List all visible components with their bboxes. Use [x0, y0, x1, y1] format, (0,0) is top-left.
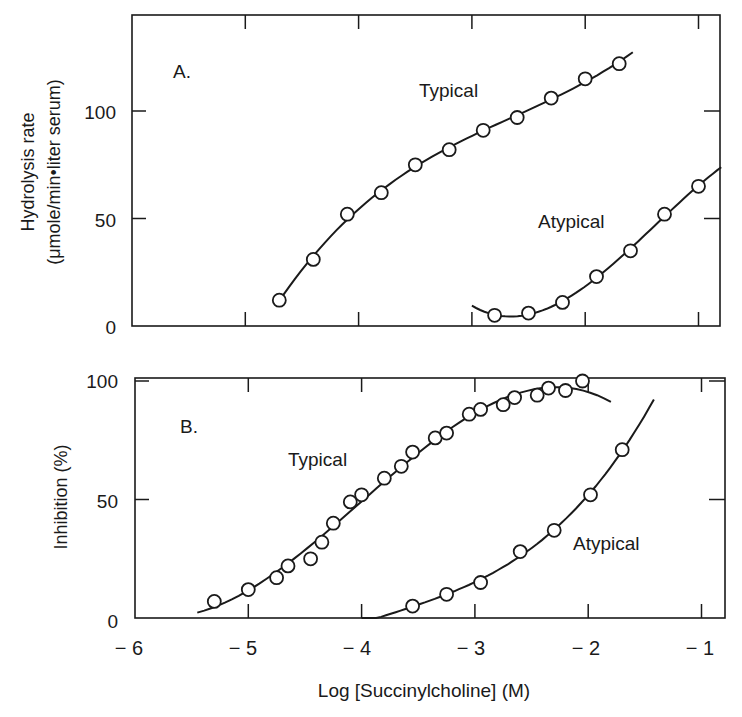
x-tick-label-neg5: − 5 [229, 637, 257, 659]
panel-a-frame [132, 15, 720, 326]
data-point-typical [440, 427, 453, 440]
panel-a: 100 50 0 Hydrolysis rate (μmole/min•lite… [18, 15, 721, 338]
data-point-typical [273, 294, 286, 307]
panel-b-y-tick-100: 100 [86, 371, 118, 392]
data-point-typical [406, 446, 419, 459]
data-point-typical [409, 158, 422, 171]
data-point-typical [341, 208, 354, 221]
data-point-typical [242, 583, 255, 596]
data-point-typical [576, 375, 589, 388]
x-tick-label-neg3: − 3 [457, 637, 485, 659]
data-point-typical [304, 552, 317, 565]
x-tick-label-neg1: − 1 [686, 637, 714, 659]
data-point-atypical [590, 270, 603, 283]
panel-a-y-tick-100: 100 [84, 102, 116, 123]
x-tick-label-neg2: − 2 [572, 637, 600, 659]
data-point-atypical [624, 244, 637, 257]
panel-b: 100 50 0 Inhibition (%) B. Typical Atypi… [51, 371, 725, 632]
data-point-atypical [548, 524, 561, 537]
data-point-typical [395, 460, 408, 473]
panel-b-atypical-label: Atypical [573, 533, 640, 554]
data-point-atypical [692, 180, 705, 193]
panel-a-x-ticks [245, 15, 698, 326]
panel-b-label: B. [180, 416, 198, 437]
x-axis-title: Log [Succinylcholine] (M) [318, 680, 530, 701]
figure: 100 50 0 Hydrolysis rate (μmole/min•lite… [0, 0, 742, 717]
data-point-typical [511, 111, 524, 124]
data-point-atypical [406, 600, 419, 613]
panel-a-atypical-label: Atypical [538, 211, 605, 232]
panel-a-y-axis-units: (μmole/min•liter serum) [44, 79, 64, 265]
data-point-typical [375, 186, 388, 199]
panel-a-label: A. [173, 61, 191, 82]
panel-b-y-axis-title: Inhibition (%) [51, 444, 71, 549]
data-point-atypical [488, 309, 501, 322]
panel-a-y-tick-50: 50 [95, 210, 116, 231]
data-point-typical [307, 253, 320, 266]
data-point-typical [355, 488, 368, 501]
panel-a-series [273, 52, 721, 322]
panel-b-y-tick-0: 0 [107, 611, 118, 632]
data-point-typical [327, 517, 340, 530]
panel-b-y-tick-50: 50 [97, 491, 118, 512]
data-point-atypical [440, 588, 453, 601]
panel-b-frame [135, 378, 725, 618]
data-point-typical [474, 403, 487, 416]
data-point-typical [542, 382, 555, 395]
curve-atypical [362, 400, 654, 619]
data-point-atypical [522, 307, 535, 320]
panel-a-y-ticks [132, 111, 720, 219]
data-point-typical [443, 143, 456, 156]
x-axis-tick-labels: − 6 − 5 − 4 − 3 − 2 − 1 [115, 637, 714, 659]
data-point-typical [508, 391, 521, 404]
data-point-typical [545, 92, 558, 105]
data-point-typical [559, 384, 572, 397]
data-point-atypical [474, 576, 487, 589]
x-tick-label-neg4: − 4 [343, 637, 371, 659]
panel-b-typical-label: Typical [288, 449, 347, 470]
panel-b-series [197, 375, 654, 619]
panel-a-y-axis-title: Hydrolysis rate [18, 112, 38, 231]
data-point-typical [579, 72, 592, 85]
data-point-typical [270, 571, 283, 584]
panel-a-y-tick-0: 0 [105, 317, 116, 338]
data-point-typical [378, 472, 391, 485]
data-point-atypical [514, 545, 527, 558]
curve-atypical [472, 167, 721, 316]
data-point-atypical [658, 208, 671, 221]
x-tick-label-neg6: − 6 [115, 637, 143, 659]
data-point-typical [613, 57, 626, 70]
curve-typical [197, 387, 611, 612]
data-point-typical [315, 536, 328, 549]
panel-a-typical-label: Typical [419, 80, 478, 101]
data-point-atypical [584, 488, 597, 501]
data-point-atypical [556, 296, 569, 309]
data-point-typical [477, 124, 490, 137]
data-point-typical [208, 595, 221, 608]
data-point-atypical [616, 443, 629, 456]
data-point-typical [282, 559, 295, 572]
